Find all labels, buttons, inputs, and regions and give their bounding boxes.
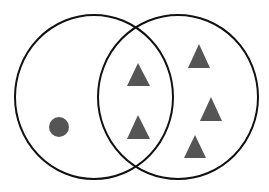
venn-diagram [0, 0, 269, 192]
dot-icon [49, 117, 69, 137]
